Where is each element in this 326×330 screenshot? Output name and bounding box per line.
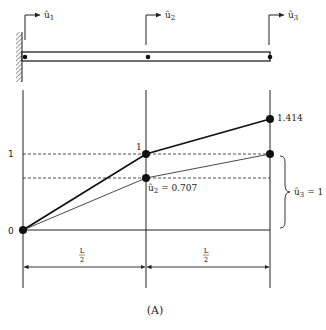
svg-text:2: 2: [204, 256, 208, 264]
fixed-support-wall: [16, 32, 22, 82]
dof-arrow-2: û2: [146, 10, 175, 45]
figure-caption: (A): [147, 304, 164, 317]
brace: [280, 156, 290, 228]
node2-lower-label: û2 = 0.707: [148, 183, 198, 195]
node3-upper-label: 1.414: [277, 113, 303, 123]
dof-label-2: û2: [165, 10, 175, 22]
dof-arrow-3: û3: [269, 10, 298, 45]
y-tick-1: 1: [8, 149, 14, 159]
node-2-upper: [142, 150, 150, 158]
node-2-lower: [142, 174, 150, 182]
beam-diagram: û1 û2 û3 1 0 1 1.414 û2 = 0.707 û3 = 1 L…: [0, 0, 326, 330]
node2-upper-label: 1: [136, 142, 142, 152]
dof-label-1: û1: [44, 10, 54, 22]
dof-label-3: û3: [288, 10, 298, 22]
svg-text:2: 2: [80, 256, 84, 264]
svg-text:L: L: [204, 247, 209, 255]
svg-text:L: L: [80, 247, 85, 255]
node-3-upper: [266, 115, 274, 123]
y-tick-0: 0: [8, 226, 14, 236]
node3-brace-label: û3 = 1: [294, 187, 323, 199]
dim-label-1: L 2: [79, 247, 85, 264]
node-3-lower: [266, 150, 274, 158]
beam: [22, 52, 272, 61]
node-origin: [19, 226, 27, 234]
dim-label-2: L 2: [203, 247, 209, 264]
dof-arrow-1: û1: [25, 10, 54, 40]
